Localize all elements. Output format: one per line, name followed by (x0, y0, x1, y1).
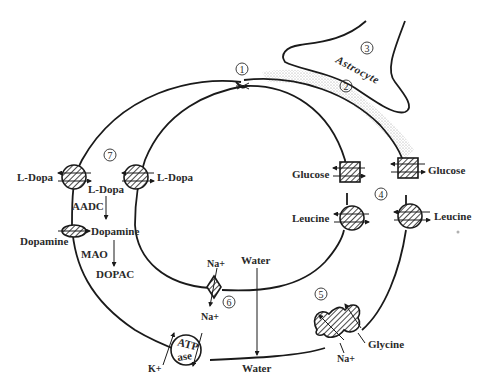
circled-number-5: 5 (315, 288, 327, 300)
dopamine-cytoplasm-label: Dopamine (91, 225, 139, 237)
glucose-transporter-outer (391, 158, 425, 178)
dopamine-outer-label: Dopamine (20, 235, 68, 247)
outer-membrane-bottom (210, 348, 325, 360)
k-label: K+ (148, 363, 162, 374)
svg-text:7: 7 (108, 150, 113, 161)
circled-number-1: 1 (236, 63, 248, 75)
svg-text:2: 2 (344, 81, 349, 92)
ldopa-outer-label: L-Dopa (17, 171, 54, 183)
na-glycine-label: Na+ (337, 353, 355, 364)
ase-label: ase (176, 349, 192, 363)
leucine-transporter-inner (334, 206, 369, 230)
svg-text:6: 6 (227, 297, 232, 308)
water-top-label: Water (241, 254, 270, 266)
tight-junction (236, 82, 250, 89)
na-top-label: Na+ (207, 258, 225, 269)
sodium-channel (207, 268, 221, 306)
leucine-transporter-outer (394, 204, 430, 228)
circled-number-6: 6 (223, 296, 235, 308)
glucose-inner-label: Glucose (292, 168, 329, 180)
glycine-label: Glycine (368, 338, 404, 350)
svg-text:5: 5 (319, 289, 324, 300)
svg-text:3: 3 (365, 43, 370, 54)
leucine-inner-label: Leucine (292, 212, 329, 224)
dopac-label: DOPAC (96, 268, 134, 280)
leucine-outer-label: Leucine (434, 210, 471, 222)
circled-number-4: 4 (375, 188, 387, 200)
circled-number-3: 3 (361, 42, 373, 54)
basement-membrane-stipple (262, 70, 414, 158)
stray-dot (457, 231, 460, 234)
svg-text:1: 1 (240, 64, 245, 75)
water-bottom-label: Water (242, 362, 271, 374)
mao-label: MAO (81, 248, 108, 260)
outer-membrane-right-upper (244, 79, 404, 178)
aadc-label: AADC (72, 200, 104, 212)
na-bottom-label: Na+ (201, 311, 219, 322)
glycine-cotransporter (315, 304, 365, 353)
svg-text:4: 4 (379, 189, 384, 200)
atpase-pump: ATP ase (163, 333, 202, 366)
inner-membrane-right (245, 86, 346, 175)
ldopa-transporter-outer (58, 165, 91, 189)
ldopa-cytoplasm-label: L-Dopa (88, 183, 125, 195)
glucose-transporter-inner (333, 162, 365, 182)
ldopa-inner-label: L-Dopa (157, 171, 194, 183)
glucose-outer-label: Glucose (428, 164, 465, 176)
bbb-diagram: 1 2 3 4 5 6 7 Astrocyte L-Dopa L-Dopa L-… (0, 0, 487, 389)
circled-number-7: 7 (104, 149, 116, 161)
inner-membrane (135, 86, 244, 288)
ldopa-transporter-inner (122, 165, 154, 189)
outer-membrane-right-lower (362, 230, 406, 330)
